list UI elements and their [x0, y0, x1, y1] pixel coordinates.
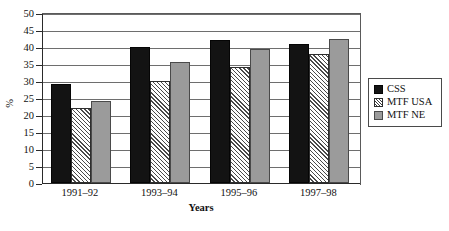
y-axis-tick-label: 40: [24, 43, 35, 54]
legend-swatch-css-icon: [374, 85, 383, 94]
bar-css-1: [51, 84, 71, 183]
y-axis-tick-label: 20: [24, 111, 35, 122]
y-axis-tick-label: 0: [29, 179, 34, 190]
legend-label-mtf-usa: MTF USA: [387, 97, 432, 108]
legend-label-mtf-ne: MTF NE: [387, 110, 425, 121]
bar-mtf-usa-4: [309, 54, 329, 183]
x-axis-tick-label: 1995–96: [220, 188, 257, 199]
bar-mtf-usa-2: [150, 81, 170, 183]
y-axis-tick-label: 35: [24, 60, 35, 71]
legend-item-mtf-usa: MTF USA: [374, 96, 437, 109]
x-axis-tick-label: 1991–92: [61, 188, 98, 199]
y-axis-tick-label: 45: [24, 26, 35, 37]
bar-mtf-ne-2: [170, 62, 190, 183]
bar-css-3: [210, 40, 230, 183]
bar-group: [43, 14, 123, 183]
x-axis-title: Years: [188, 203, 213, 214]
bar-group: [202, 14, 282, 183]
bar-mtf-ne-1: [91, 101, 111, 183]
x-axis-tick-label: 1993–94: [141, 188, 178, 199]
legend-swatch-mtf-usa-icon: [374, 98, 383, 107]
y-axis-tick: [36, 184, 42, 185]
y-axis-tick: [36, 14, 42, 15]
y-axis-tick-label: 10: [24, 145, 35, 156]
y-axis-tick-label: 30: [24, 77, 35, 88]
y-axis-tick-label: 50: [24, 9, 35, 20]
y-axis-tick: [36, 48, 42, 49]
y-axis-tick: [36, 116, 42, 117]
y-axis-tick: [36, 65, 42, 66]
legend-item-mtf-ne: MTF NE: [374, 109, 437, 122]
y-axis-title: %: [5, 99, 16, 108]
bar-mtf-ne-4: [329, 39, 349, 184]
legend-item-css: CSS: [374, 83, 437, 96]
y-axis-tick: [36, 133, 42, 134]
legend-label-css: CSS: [387, 84, 406, 95]
x-axis-tick-label: 1997–98: [300, 188, 337, 199]
bar-css-2: [130, 47, 150, 183]
bar-css-4: [289, 44, 309, 183]
bar-mtf-ne-3: [250, 49, 270, 183]
y-axis-tick: [36, 99, 42, 100]
y-axis-tick: [36, 167, 42, 168]
y-axis-tick: [36, 82, 42, 83]
legend-swatch-mtf-ne-icon: [374, 111, 383, 120]
bar-mtf-usa-1: [71, 108, 91, 183]
bar-group: [123, 14, 203, 183]
y-axis-tick-label: 25: [24, 94, 35, 105]
y-axis-tick: [36, 31, 42, 32]
y-axis-tick-label: 15: [24, 128, 35, 139]
chart-legend: CSS MTF USA MTF NE: [368, 78, 442, 127]
y-axis-tick: [36, 150, 42, 151]
bar-group: [282, 14, 362, 183]
bar-mtf-usa-3: [230, 67, 250, 183]
bar-chart-figure: % 05101520253035404550 Years CSS MTF USA…: [0, 0, 449, 231]
plot-area: 05101520253035404550: [42, 14, 360, 184]
y-axis-tick-label: 5: [29, 162, 34, 173]
